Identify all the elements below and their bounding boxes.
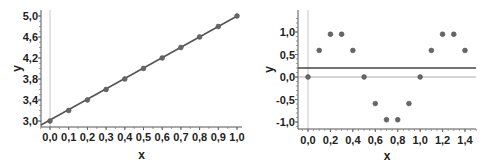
data-point: [179, 45, 184, 50]
x-tick-label: 0,7: [173, 131, 188, 143]
data-point: [350, 48, 355, 53]
x-tick-label: 0,0: [42, 131, 57, 143]
data-point: [384, 117, 389, 122]
x-tick-label: 0,0: [300, 134, 315, 146]
data-point: [306, 75, 311, 80]
x-tick-label: 1,0: [229, 131, 244, 143]
x-axis-title: x: [138, 148, 145, 162]
data-point: [216, 24, 221, 29]
y-tick-label: 3,0: [23, 115, 38, 127]
x-tick-label: 0,2: [323, 134, 338, 146]
x-tick-label: 0,2: [80, 131, 95, 143]
x-tick-label: 0,8: [390, 134, 405, 146]
data-point: [48, 119, 53, 124]
x-axis-title: x: [384, 149, 391, 163]
data-point: [235, 14, 240, 19]
fit-line: [41, 15, 239, 125]
x-tick-label: 0,9: [211, 131, 226, 143]
x-tick-label: 1,4: [457, 134, 473, 146]
y-axis-title: y: [10, 65, 24, 72]
y-tick-label: 0,0: [280, 71, 295, 83]
data-point: [395, 117, 400, 122]
left-chart-linear: 3,03,43,84,24,65,00,00,10,20,30,40,50,60…: [10, 10, 245, 162]
data-point: [362, 75, 367, 80]
x-tick-label: 0,3: [98, 131, 113, 143]
x-tick-label: 0,6: [155, 131, 170, 143]
charts: 3,03,43,84,24,65,00,00,10,20,30,40,50,60…: [0, 0, 489, 168]
data-point: [160, 56, 165, 61]
y-tick-label: 3,4: [23, 94, 39, 106]
data-point: [451, 32, 456, 37]
y-axis-title: y: [262, 66, 276, 73]
data-point: [407, 101, 412, 106]
data-point: [339, 32, 344, 37]
data-point: [141, 66, 146, 71]
data-point: [122, 77, 127, 82]
x-tick-label: 1,0: [412, 134, 427, 146]
y-tick-label: 1,0: [280, 26, 295, 38]
data-point: [429, 48, 434, 53]
x-tick-label: 0,4: [117, 131, 133, 143]
y-tick-label: 0,5: [280, 49, 295, 61]
data-point: [373, 101, 378, 106]
data-point: [66, 108, 71, 113]
data-point: [104, 87, 109, 92]
data-point: [463, 48, 468, 53]
data-point: [328, 32, 333, 37]
data-point: [85, 98, 90, 103]
x-tick-label: 0,8: [192, 131, 207, 143]
y-tick-label: 4,6: [23, 31, 38, 43]
x-tick-label: 0,1: [61, 131, 76, 143]
y-tick-label: 4,2: [23, 52, 38, 64]
right-chart-sine: -1,0-0,50,00,51,00,00,20,40,60,81,01,21,…: [262, 10, 476, 163]
x-tick-label: 0,4: [345, 134, 361, 146]
data-point: [317, 48, 322, 53]
y-tick-label: -0,5: [276, 94, 295, 106]
data-point: [197, 35, 202, 40]
data-point: [440, 32, 445, 37]
y-tick-label: 3,8: [23, 73, 38, 85]
x-tick-label: 0,5: [136, 131, 151, 143]
y-tick-label: 5,0: [23, 10, 38, 22]
data-point: [418, 75, 423, 80]
y-tick-label: -1,0: [276, 116, 295, 128]
x-tick-label: 0,6: [368, 134, 383, 146]
x-tick-label: 1,2: [435, 134, 450, 146]
